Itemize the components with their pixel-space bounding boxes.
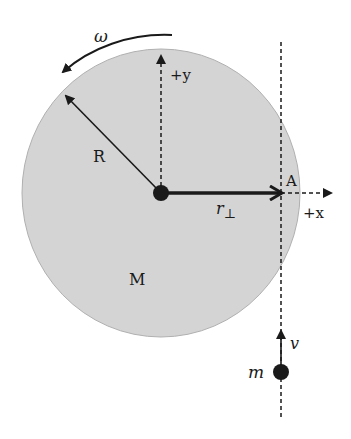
omega-label: ω	[94, 26, 108, 46]
radius-label: R	[93, 147, 106, 166]
velocity-label: v	[290, 334, 299, 353]
point-a-label: A	[285, 172, 297, 190]
particle-dot	[273, 364, 289, 380]
diagram-canvas: ω +y R +x r⊥ A M v m	[0, 0, 351, 439]
center-dot	[153, 185, 169, 201]
particle-mass-label: m	[248, 362, 264, 382]
y-axis-label: +y	[170, 66, 192, 84]
x-axis-label: +x	[303, 204, 325, 222]
disk-mass-label: M	[129, 270, 145, 289]
